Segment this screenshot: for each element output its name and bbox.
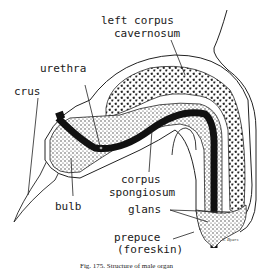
label-prepuce: prepuce — [114, 232, 160, 243]
artist-signature: S. Byers — [222, 237, 238, 242]
label-crus: crus — [14, 86, 41, 97]
label-foreskin: (foreskin) — [117, 244, 183, 255]
label-left-corpus-cavernosum-1: left corpus — [101, 15, 174, 26]
label-bulb: bulb — [55, 201, 82, 212]
label-left-corpus-cavernosum-2: cavernosum — [114, 28, 180, 39]
label-urethra: urethra — [40, 63, 86, 74]
figure-caption: Fig. 175. Structure of male organ — [80, 262, 173, 270]
label-glans: glans — [128, 204, 161, 215]
label-corpus-spongiosum-1: corpus — [121, 174, 161, 185]
label-corpus-spongiosum-2: spongiosum — [109, 187, 175, 198]
